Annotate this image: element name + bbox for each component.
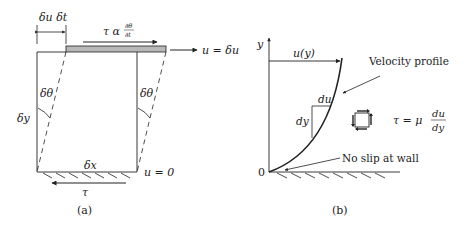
moving-plate (66, 46, 166, 52)
caption-b: (b) (332, 204, 348, 217)
equation-lhs: τ = μ (393, 114, 422, 127)
wall-hatch-b (277, 173, 385, 178)
shear-element-icon (351, 109, 373, 131)
bottom-velocity-label: u = 0 (144, 166, 174, 179)
deformed-right-edge (137, 52, 166, 172)
caption-a: (a) (77, 204, 92, 217)
equation-denominator: dy (432, 122, 444, 133)
profile-label: Velocity profile (368, 55, 449, 67)
dtheta-numerator: ∂θ (125, 22, 132, 30)
shear-rate-label: τ α (103, 25, 121, 38)
angle-arc-left (38, 108, 50, 118)
dy-label: dy (296, 115, 310, 127)
displacement-dimension (37, 25, 66, 44)
origin-label: 0 (258, 166, 265, 179)
displacement-label: δu δt (39, 11, 68, 24)
wall-shear-label: τ (82, 186, 89, 199)
fluid-element (37, 52, 137, 172)
panel-a: δu δt τ α ∂θ ∂t u = δu δθ δθ δy (17, 11, 239, 217)
no-slip-label: No slip at wall (342, 152, 419, 164)
angle-left-label: δθ (40, 87, 54, 100)
du-label: du (318, 93, 332, 105)
gradient-triangle (312, 106, 330, 138)
angle-arc-right (138, 108, 150, 118)
angle-right-label: δθ (140, 87, 154, 100)
width-label: δx (84, 159, 98, 172)
dtheta-denominator: ∂t (125, 31, 131, 39)
top-velocity-label: u = δu (202, 44, 239, 57)
height-label: δy (17, 112, 31, 125)
diagram-canvas: δu δt τ α ∂θ ∂t u = δu δθ δθ δy (0, 0, 468, 227)
deformed-left-edge (37, 52, 66, 172)
panel-b: y 0 u(y) Velocity profile du dy (256, 38, 449, 217)
wall-hatch-a (43, 173, 130, 178)
equation-numerator: du (432, 108, 445, 119)
velocity-label: u(y) (293, 47, 315, 60)
profile-pointer (343, 76, 380, 93)
y-axis-label: y (256, 38, 264, 51)
